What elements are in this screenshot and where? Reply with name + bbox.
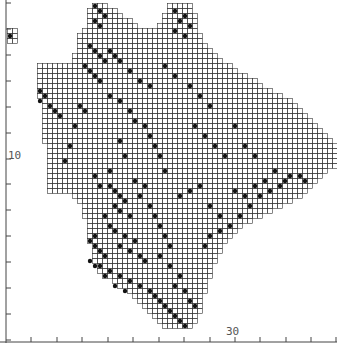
distribution-map	[0, 0, 337, 343]
map-axes	[0, 0, 337, 343]
x-axis-label: 30	[226, 326, 239, 337]
map-grid	[8, 4, 337, 329]
y-axis-label: 10	[8, 150, 21, 161]
